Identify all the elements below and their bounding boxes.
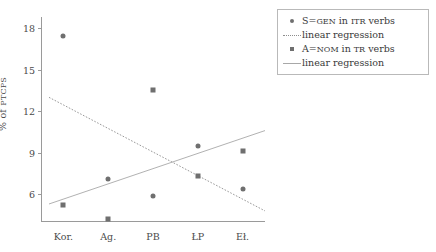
trendline-2 [49, 131, 265, 204]
y-axis-label-smallcaps: PTCPS [0, 77, 8, 106]
data-point [151, 88, 156, 93]
x-tick-label: ŁP [191, 222, 204, 242]
data-point [106, 217, 111, 222]
circle-marker-icon [282, 19, 302, 24]
x-tick-label: PB [146, 222, 159, 242]
y-tick-mark [38, 70, 42, 71]
circle-marker-glyph [290, 19, 295, 24]
y-tick-mark [38, 153, 42, 154]
data-point [240, 186, 245, 191]
legend-item-2[interactable]: linear regression [282, 28, 423, 42]
solid-line-glyph [283, 63, 301, 64]
legend-item-1[interactable]: S=GEN in ITR verbs [282, 14, 423, 28]
x-tick-label: Eł. [236, 222, 249, 242]
y-tick-mark [38, 194, 42, 195]
legend-label: S=GEN in ITR verbs [302, 16, 395, 26]
solid-line-icon [282, 63, 302, 64]
x-tick-label: Ag. [100, 222, 116, 242]
data-point [61, 34, 66, 39]
y-axis-label: % of PTCPS [0, 77, 8, 131]
data-point [106, 177, 111, 182]
data-point [61, 203, 66, 208]
y-axis-label-prefix: % of [0, 106, 8, 131]
chart-figure: % of PTCPS 69121518 Kor.Ag.PBŁPEł. S=GEN… [0, 0, 436, 252]
y-tick-mark [38, 28, 42, 29]
x-tick-label: Kor. [54, 222, 73, 242]
data-point [195, 143, 200, 148]
plot-area: 69121518 Kor.Ag.PBŁPEł. [41, 17, 265, 222]
trendline-1 [49, 97, 265, 211]
dotted-line-glyph [283, 35, 301, 36]
data-point [151, 193, 156, 198]
trendlines-layer [41, 17, 265, 222]
legend-item-3[interactable]: A=NOM in TR verbs [282, 42, 423, 56]
legend-item-4[interactable]: linear regression [282, 56, 423, 70]
data-point [240, 149, 245, 154]
y-tick-mark [38, 111, 42, 112]
legend-label: linear regression [302, 30, 384, 40]
square-marker-icon [282, 47, 302, 52]
legend-label: A=NOM in TR verbs [302, 44, 395, 54]
legend: S=GEN in ITR verbslinear regressionA=NOM… [277, 9, 429, 75]
legend-label: linear regression [302, 58, 384, 68]
data-point [195, 174, 200, 179]
square-marker-glyph [290, 47, 295, 52]
dotted-line-icon [282, 35, 302, 36]
